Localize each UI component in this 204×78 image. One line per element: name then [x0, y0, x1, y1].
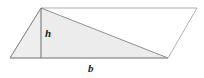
figure-canvas	[0, 0, 204, 78]
geometry-figure: h b	[0, 0, 204, 78]
height-label: h	[45, 28, 51, 39]
base-label: b	[88, 63, 94, 74]
